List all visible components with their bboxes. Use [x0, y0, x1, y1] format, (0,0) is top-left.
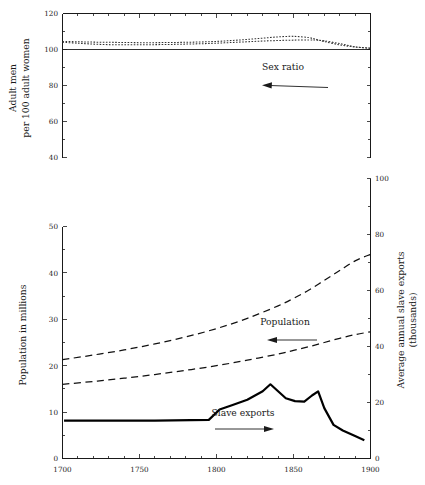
bottom-panel-xtick-1750: 1750 — [130, 465, 149, 474]
top-panel-ytick-80: 80 — [49, 81, 59, 90]
bottom-panel-rtick-60: 60 — [375, 286, 385, 295]
bottom-panel-ytick-50: 50 — [49, 222, 59, 231]
bottom-panel-xtick-1850: 1850 — [284, 465, 303, 474]
annotation-slave-exports-label: Slave exports — [211, 407, 274, 418]
bottom-panel-x-ticks — [63, 454, 371, 459]
top-panel-right-ticks — [367, 32, 371, 158]
top-panel-ytick-60: 60 — [49, 117, 59, 126]
annotation-population-label: Population — [260, 316, 310, 327]
two-panel-chart: Adult men per 100 adult women 40 60 80 — [0, 0, 425, 485]
bottom-panel-ytick-20: 20 — [49, 362, 59, 371]
bottom-panel-rtick-80: 80 — [375, 230, 385, 239]
bottom-panel-rtick-0: 0 — [375, 454, 380, 463]
bottom-panel-ytick-40: 40 — [49, 269, 59, 278]
bottom-panel-xtick-1800: 1800 — [207, 465, 226, 474]
bottom-panel-rtick-100: 100 — [375, 174, 389, 183]
bottom-panel-xtick-1900: 1900 — [361, 465, 380, 474]
series-sex-ratio-upper — [63, 36, 371, 48]
top-panel-ytick-120: 120 — [44, 9, 58, 18]
bottom-panel-rtick-20: 20 — [375, 398, 385, 407]
annotation-population-arrow — [267, 337, 317, 343]
bottom-panel-xtick-1700: 1700 — [53, 465, 72, 474]
series-population-lower — [63, 332, 371, 384]
series-population-upper — [63, 254, 371, 359]
bottom-panel-ylabel-right-line2: (thousands) — [407, 293, 418, 348]
bottom-panel: Population in millions Average annual sl… — [17, 174, 418, 474]
top-panel-ytick-100: 100 — [44, 45, 58, 54]
annotation-sex-ratio-arrow — [262, 82, 328, 88]
bottom-panel-ytick-30: 30 — [49, 315, 59, 324]
annotation-slave-exports-arrow — [215, 426, 274, 432]
bottom-panel-ytick-10: 10 — [49, 408, 59, 417]
annotation-sex-ratio-label: Sex ratio — [262, 61, 304, 72]
bottom-panel-right-y-ticks — [367, 179, 371, 459]
figure-root: Adult men per 100 adult women 40 60 80 — [0, 0, 425, 485]
top-panel-x-ticks — [63, 14, 371, 19]
bottom-panel-ylabel-left: Population in millions — [17, 284, 28, 385]
top-panel-ytick-40: 40 — [49, 153, 59, 162]
top-panel-y-ticks — [63, 14, 67, 158]
top-panel: Adult men per 100 adult women 40 60 80 — [7, 9, 371, 162]
bottom-panel-left-y-ticks — [63, 227, 67, 459]
top-panel-ylabel-line1: Adult men — [7, 64, 18, 113]
bottom-panel-ylabel-right-line1: Average annual slave exports — [395, 251, 406, 389]
series-sex-ratio-lower — [63, 40, 371, 48]
top-panel-ylabel-line2: per 100 adult women — [20, 38, 31, 137]
bottom-panel-rtick-40: 40 — [375, 342, 385, 351]
bottom-panel-ytick-0: 0 — [53, 454, 58, 463]
